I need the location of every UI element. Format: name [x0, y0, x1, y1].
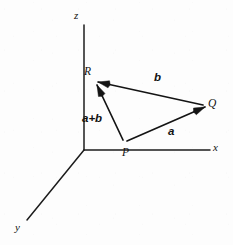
vector-a-line [127, 107, 205, 141]
axis-label-x: x [213, 142, 218, 153]
vector-diagram-figure: z x y P Q R a b a+b [0, 0, 233, 245]
axes-group [27, 25, 210, 220]
diagram-canvas [0, 0, 233, 245]
vector-a-arrowhead [193, 107, 205, 115]
vector-b-arrowhead [98, 81, 110, 88]
axis-label-y: y [15, 222, 20, 233]
vector-label-a-plus-b: a+b [82, 113, 102, 125]
vectors-group [97, 81, 205, 141]
vector-a-plus-b-arrowhead [97, 85, 105, 96]
point-label-q: Q [208, 98, 216, 110]
point-label-p: P [122, 147, 129, 159]
axis-label-z: z [74, 10, 78, 21]
point-label-r: R [84, 66, 91, 78]
vector-b-line [98, 82, 203, 105]
y-axis-line [27, 150, 84, 220]
vector-label-a: a [168, 126, 174, 138]
vector-label-b: b [154, 72, 161, 84]
